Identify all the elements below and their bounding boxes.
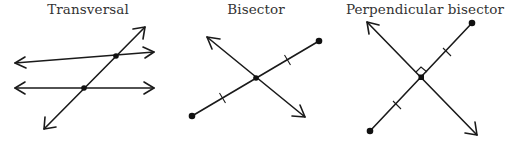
segment-endpoint-left — [189, 113, 196, 120]
congruence-tick-left — [220, 93, 226, 103]
intersection-point-upper — [113, 53, 119, 59]
perpendicular-bisector-figure — [367, 20, 477, 135]
midpoint — [419, 75, 425, 81]
segment-endpoint-right — [316, 38, 323, 45]
right-angle-marker — [416, 67, 427, 72]
midpoint — [253, 75, 259, 81]
bisector-figure — [189, 37, 323, 119]
transversal-figure — [15, 27, 154, 129]
segment-endpoint-top-right — [469, 20, 476, 27]
intersection-point-lower — [81, 85, 87, 91]
transversal-line — [44, 27, 145, 129]
diagram-canvas — [0, 0, 511, 141]
segment-endpoint-bottom-left — [367, 128, 374, 135]
upper-line — [15, 47, 154, 68]
